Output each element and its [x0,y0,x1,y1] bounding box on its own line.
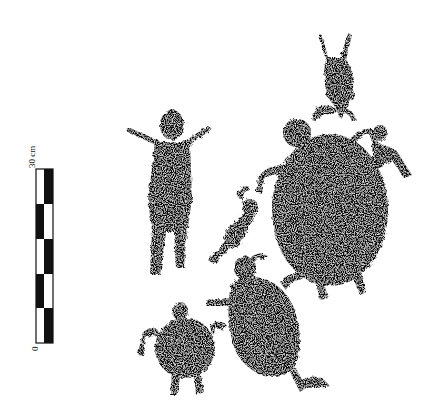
scale-label-top: 30 cm [27,146,37,168]
small-figure-left [208,186,258,264]
anthropomorph-figure [126,110,212,275]
scale-segment [44,308,53,343]
small-animal-top [312,34,356,122]
scale-segment [44,169,53,204]
small-lizard-right [370,125,412,180]
scale-segment [44,239,53,274]
scale-segment [36,204,44,239]
small-turtle [138,302,226,395]
scale-bar [36,169,53,343]
scale-label-zero: 0 [30,347,40,352]
petroglyph-drawing [0,0,444,420]
scale-segment [36,274,44,308]
large-turtle [256,119,388,300]
stray-mark [298,377,330,388]
